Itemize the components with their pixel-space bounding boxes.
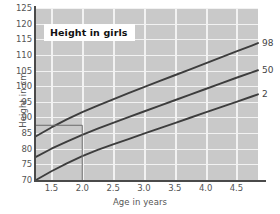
- percentile-label-2: 2: [262, 89, 268, 99]
- plot-area: Height in girls: [36, 8, 258, 180]
- percentile-curve-50: [36, 70, 258, 157]
- y-tick-label: 120: [0, 19, 32, 28]
- growth-chart: Height in girls 707580859095100105110115…: [0, 0, 280, 214]
- x-tick-label: 1.5: [45, 184, 58, 193]
- x-tick-label: 3.5: [168, 184, 181, 193]
- y-tick-label: 70: [0, 176, 32, 185]
- x-axis-label: Age in years: [0, 197, 280, 207]
- chart-title: Height in girls: [44, 24, 135, 41]
- y-tick-label: 75: [0, 160, 32, 169]
- x-axis-line: [34, 180, 266, 182]
- y-tick-label: 125: [0, 4, 32, 13]
- x-tick-label: 2.0: [76, 184, 89, 193]
- x-tick-label: 4.5: [230, 184, 243, 193]
- y-axis-line: [34, 6, 36, 182]
- x-tick-label: 3.0: [137, 184, 150, 193]
- percentile-label-98: 98: [262, 38, 273, 48]
- percentile-curve-98: [36, 43, 258, 136]
- y-tick-label: 80: [0, 144, 32, 153]
- y-axis-label: Height in cm: [18, 55, 28, 145]
- y-tick-label: 115: [0, 35, 32, 44]
- percentile-curve-2: [36, 94, 258, 180]
- percentile-label-50: 50: [262, 65, 273, 75]
- x-tick-label: 2.5: [106, 184, 119, 193]
- x-tick-label: 4.0: [199, 184, 212, 193]
